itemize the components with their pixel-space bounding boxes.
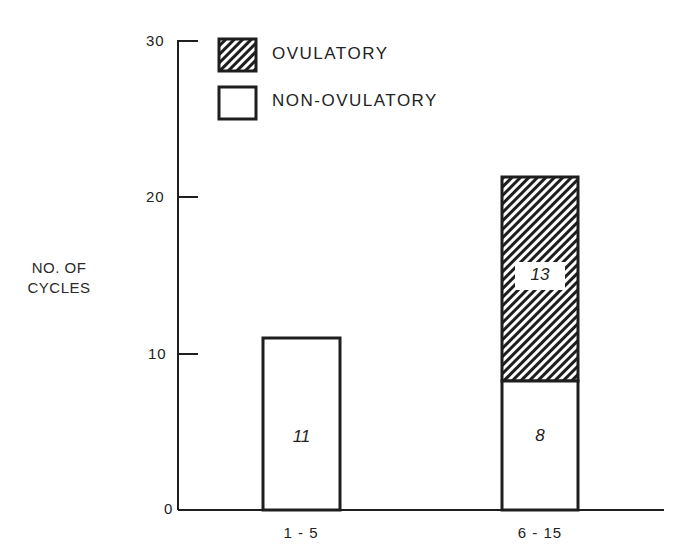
y-tick-label-30: 30 <box>146 32 165 49</box>
y-axis-title-line2: CYCLES <box>14 278 104 298</box>
y-tick-label-10: 10 <box>148 345 167 362</box>
x-category-1-5: 1 - 5 <box>251 524 351 541</box>
y-tick-label-0: 0 <box>164 500 173 517</box>
x-category-6-15: 6 - 15 <box>490 524 590 541</box>
y-axis-title-line1: NO. OF <box>14 258 104 278</box>
bar-6-15-non-ovulatory-value: 8 <box>502 426 578 446</box>
legend-label-ovulatory: OVULATORY <box>272 44 388 64</box>
bar-6-15-ovulatory-value: 13 <box>515 265 565 285</box>
legend-swatch-ovulatory <box>219 39 256 71</box>
y-axis-title: NO. OF CYCLES <box>14 258 104 298</box>
bar-1-5-value: 11 <box>263 427 340 447</box>
bar-1-5-non-ovulatory <box>263 338 340 510</box>
legend-label-non-ovulatory: NON-OVULATORY <box>272 91 438 111</box>
legend-swatch-non-ovulatory <box>219 87 256 119</box>
y-tick-label-20: 20 <box>146 188 165 205</box>
